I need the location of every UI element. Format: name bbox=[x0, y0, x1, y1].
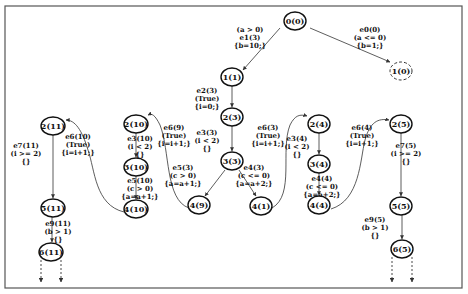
node-label: 3(3) bbox=[223, 156, 242, 166]
node-label: 3(4) bbox=[310, 159, 329, 169]
edge-label-line: {b=10;} bbox=[234, 41, 266, 50]
edge-label-e9_5: e9(5)(b > 1){} bbox=[361, 215, 388, 240]
edge-label-line: {i=i+1;} bbox=[251, 139, 285, 148]
edge-label-e6_4: e6(4)(True){i=i+1;} bbox=[345, 123, 379, 148]
edge-label-e3_10: e3(10)(i < 2){} bbox=[127, 134, 153, 159]
edge-label-e6_3: e6(3)(True){i=i+1;} bbox=[251, 123, 285, 148]
edge-label-e5_10: e5(10)(c > 0){a=a+1;} bbox=[121, 176, 158, 201]
node-n4_4: 4(4) bbox=[308, 196, 330, 214]
execution-tree-diagram: (a > 0)e1(3){b=10;}e0(0)(a <= 0){b=1;}e2… bbox=[0, 0, 468, 294]
node-n2_4: 2(4) bbox=[308, 115, 330, 133]
node-n5_11: 5(11) bbox=[41, 199, 65, 217]
edge-label-e3_3: e3(3)(i < 2){} bbox=[195, 128, 220, 153]
edge-label-e6_9: e6(9)(True){i=i+1;} bbox=[157, 123, 191, 148]
edge-label-line: {i=i+1;} bbox=[345, 139, 379, 148]
node-label: 5(11) bbox=[41, 203, 65, 213]
node-label: 5(5) bbox=[392, 201, 411, 211]
edge-label-line: {a=a+1;} bbox=[164, 179, 201, 188]
node-label: 6(5) bbox=[393, 244, 412, 254]
edge-label-line: {i=i+1;} bbox=[157, 139, 191, 148]
node-label: 2(4) bbox=[310, 119, 329, 129]
edge-label-e7_11: e7(11)(i >= 2){} bbox=[11, 141, 42, 166]
node-n4_1: 4(1) bbox=[250, 197, 272, 215]
edge-label-line: {} bbox=[202, 144, 211, 153]
node-n2_11: 2(11) bbox=[41, 117, 65, 135]
edge-label-line: {a=a+1;} bbox=[121, 192, 158, 201]
node-n5_5: 5(5) bbox=[390, 197, 412, 215]
node-label: 4(10) bbox=[124, 204, 148, 214]
node-label: 2(11) bbox=[41, 121, 65, 131]
edge-label-e9_11: e9(11)(b > 1){} bbox=[44, 219, 71, 244]
node-label: 1(1) bbox=[223, 72, 242, 82]
node-n2_3: 2(3) bbox=[221, 108, 243, 126]
edge-label-e2_3: e2(3)(True){i=0;} bbox=[195, 86, 220, 111]
node-n4_10: 4(10) bbox=[124, 200, 148, 218]
node-n2_5: 2(5) bbox=[390, 115, 412, 133]
edge-label-line: {} bbox=[370, 231, 379, 240]
node-n6_5: 6(5) bbox=[391, 240, 413, 258]
node-n3_10: 3(10) bbox=[124, 158, 148, 176]
node-n3_3: 3(3) bbox=[221, 152, 243, 170]
node-n6_11: 6(11) bbox=[39, 243, 63, 261]
node-label: 2(3) bbox=[223, 112, 242, 122]
node-n0_0: 0(0) bbox=[284, 12, 306, 30]
edge-label-e5_3: e5(3)(c > 0){a=a+1;} bbox=[164, 163, 201, 188]
edge-label-line: {} bbox=[21, 157, 30, 166]
node-n3_4: 3(4) bbox=[308, 155, 330, 173]
edge-label-e6_10: e6(10)(True){i=i+1;} bbox=[61, 132, 95, 157]
edge-label-line: {i=i+1;} bbox=[61, 148, 95, 157]
edge-label-line: {} bbox=[401, 157, 410, 166]
edge-label-line: {b=1;} bbox=[356, 41, 383, 50]
node-label: 2(10) bbox=[124, 119, 148, 129]
node-n2_10: 2(10) bbox=[124, 115, 148, 133]
node-label: 3(10) bbox=[124, 162, 148, 172]
edge-label-line: {a=a+2;} bbox=[235, 179, 272, 188]
edge-label-e1_3: (a > 0)e1(3){b=10;} bbox=[234, 25, 266, 50]
edge-label-e4_4: e4(4)(c <= 0){a=a+2;} bbox=[303, 174, 340, 199]
node-label: 4(4) bbox=[310, 200, 329, 210]
node-label: 2(5) bbox=[392, 119, 411, 129]
edge-label-e7_5: e7(5)(i >= 2){} bbox=[391, 141, 422, 166]
node-label: 4(9) bbox=[190, 200, 209, 210]
node-n1_0: 1(0) bbox=[390, 62, 412, 80]
edge-label-line: {i=0;} bbox=[195, 102, 220, 111]
edge-label-e3_4: e3(4)(i < 2){} bbox=[285, 134, 310, 159]
node-n1_1: 1(1) bbox=[221, 68, 243, 86]
node-label: 6(11) bbox=[39, 247, 63, 257]
node-n4_9: 4(9) bbox=[188, 196, 210, 214]
edge-labels: (a > 0)e1(3){b=10;}e0(0)(a <= 0){b=1;}e2… bbox=[11, 25, 422, 244]
edge-label-line: {} bbox=[53, 235, 62, 244]
edge-label-e0_0: e0(0)(a <= 0){b=1;} bbox=[354, 25, 387, 50]
edge-label-line: {} bbox=[292, 150, 301, 159]
node-label: 4(1) bbox=[252, 201, 271, 211]
node-label: 1(0) bbox=[392, 66, 411, 76]
node-label: 0(0) bbox=[286, 16, 305, 26]
edge-e5-3 bbox=[205, 170, 225, 196]
